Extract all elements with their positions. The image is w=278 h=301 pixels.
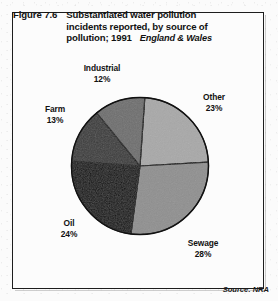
figure-title-line-1: Substantiated water pollution xyxy=(66,9,270,21)
figure-header: Figure 7.6 Substantiated water pollution… xyxy=(13,9,270,44)
pie-label-industrial-percent: 12% xyxy=(64,74,140,85)
pie-label-sewage-name: Sewage xyxy=(170,238,236,249)
pie-label-other-percent: 23% xyxy=(186,103,242,114)
pie-label-sewage-percent: 28% xyxy=(170,249,236,260)
figure-number-label: Figure 7.6 xyxy=(13,9,57,20)
pie-label-oil-name: Oil xyxy=(44,218,94,229)
pie-label-oil-percent: 24% xyxy=(44,229,94,240)
figure-title-line-3: pollution; 1991 xyxy=(66,32,131,44)
pie-label-farm-name: Farm xyxy=(29,104,81,115)
pie-label-industrial-name: Industrial xyxy=(64,63,140,74)
figure-title-block: Substantiated water pollution incidents … xyxy=(66,9,270,44)
figure-title-line-3-row: pollution; 1991 England & Wales xyxy=(66,32,270,44)
pie-label-other-name: Other xyxy=(186,92,242,103)
pie-label-farm: Farm 13% xyxy=(29,104,81,125)
pie-label-farm-percent: 13% xyxy=(29,115,81,126)
pie-label-sewage: Sewage 28% xyxy=(170,238,236,259)
pie-label-other: Other 23% xyxy=(186,92,242,113)
figure-region-label: England & Wales xyxy=(140,33,212,43)
pie-label-oil: Oil 24% xyxy=(44,218,94,239)
figure-root: Figure 7.6 Substantiated water pollution… xyxy=(0,0,278,301)
pie-label-industrial: Industrial 12% xyxy=(64,63,140,84)
figure-title-line-2: incidents reported, by source of xyxy=(66,21,270,33)
figure-source-note: Source: NRA xyxy=(223,285,269,294)
